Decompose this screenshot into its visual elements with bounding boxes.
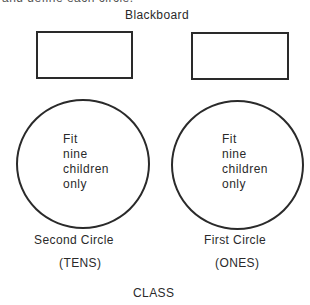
left-blackboard-box — [36, 31, 133, 79]
first-circle-line-1: Fit — [222, 132, 268, 147]
right-blackboard-box — [191, 32, 289, 80]
clipped-caption: and define each circle. — [2, 0, 134, 5]
first-circle-line-4: only — [222, 177, 268, 192]
tens-label: (TENS) — [59, 256, 101, 270]
class-label: CLASS — [133, 286, 174, 300]
first-circle-text: Fit nine children only — [222, 132, 268, 192]
second-circle-line-1: Fit — [63, 132, 109, 147]
blackboard-label: Blackboard — [125, 8, 189, 22]
second-circle-line-2: nine — [63, 147, 109, 162]
second-circle-line-3: children — [63, 162, 109, 177]
second-circle-text: Fit nine children only — [63, 132, 109, 192]
second-circle-line-4: only — [63, 177, 109, 192]
second-circle-label: Second Circle — [34, 233, 114, 247]
ones-label: (ONES) — [215, 256, 259, 270]
first-circle-label: First Circle — [204, 233, 266, 247]
first-circle-line-2: nine — [222, 147, 268, 162]
first-circle-line-3: children — [222, 162, 268, 177]
